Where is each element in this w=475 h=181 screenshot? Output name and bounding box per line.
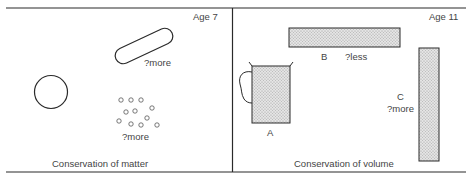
container-b-label: B xyxy=(321,52,327,62)
rod-annotation: ?more xyxy=(144,58,171,68)
container-b-annotation: ?less xyxy=(345,52,367,62)
container-c-annotation: ?more xyxy=(387,104,414,114)
age-label-left: Age 7 xyxy=(193,12,218,22)
pieces-annotation: ?more xyxy=(122,132,149,142)
container-a-jug-shape xyxy=(240,62,293,123)
clay-ball-shape xyxy=(35,76,68,109)
caption-left: Conservation of matter xyxy=(52,159,148,169)
container-a-label: A xyxy=(267,128,273,138)
container-b-shape xyxy=(289,28,400,47)
conservation-figure: Age 7 ?more ?more Conservation of matter… xyxy=(0,0,475,181)
age-label-right: Age 11 xyxy=(429,12,458,22)
container-c-shape xyxy=(419,48,439,161)
clay-pieces-shape xyxy=(117,98,159,127)
container-c-label: C xyxy=(397,92,404,102)
caption-right: Conservation of volume xyxy=(294,159,394,169)
